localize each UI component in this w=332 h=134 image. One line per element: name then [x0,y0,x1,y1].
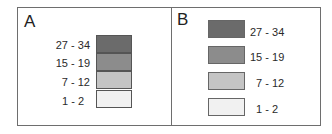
legend-b-label-1: 27 - 34 [250,27,284,38]
legend-b-swatch-4 [208,98,245,116]
legend-a-swatch-1 [96,35,132,53]
panel-a-label: A [24,13,35,30]
legend-b-label-4: 1 - 2 [256,104,278,115]
panel-divider [171,7,172,126]
legend-a-label-3: 7 - 12 [30,77,90,88]
legend-a-swatch-2 [96,53,132,71]
legend-a-label-4: 1 - 2 [24,96,84,107]
legend-b-swatch-2 [208,46,245,64]
legend-b-swatch-3 [208,72,245,90]
legend-b-swatch-1 [208,20,245,38]
legend-b-label-2: 15 - 19 [250,52,284,63]
legend-a-label-1: 27 - 34 [30,40,90,51]
legend-b-label-3: 7 - 12 [256,78,284,89]
panel-b-label: B [177,11,188,28]
legend-a-label-2: 15 - 19 [30,58,90,69]
legend-a-swatch-3 [96,71,132,89]
legend-a-swatch-4 [96,90,132,108]
